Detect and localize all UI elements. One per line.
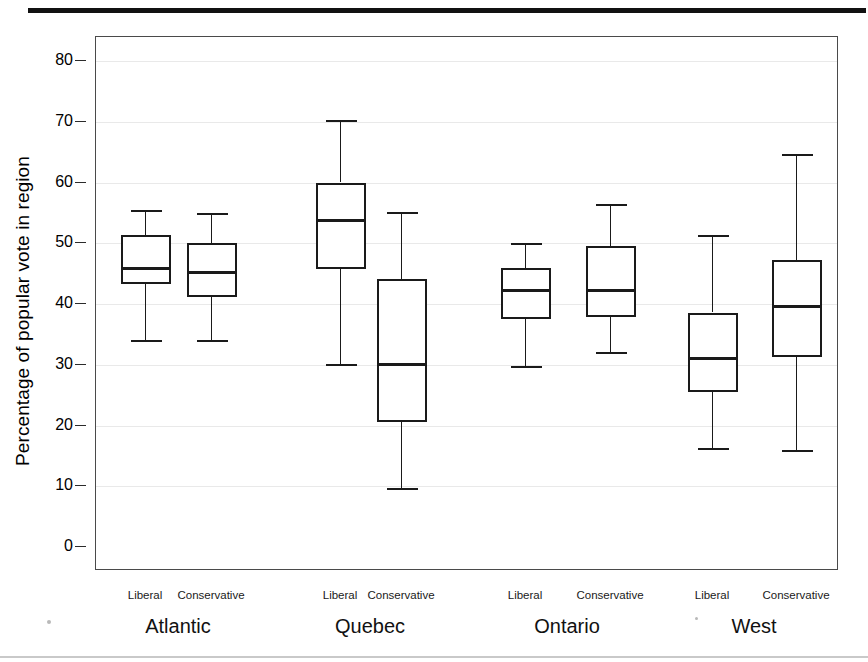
- lower-whisker-cap: [511, 366, 542, 368]
- lower-whisker-cap: [782, 450, 813, 452]
- x-series-label-quebec-conservative: Conservative: [367, 589, 434, 601]
- y-tick-mark: [75, 546, 86, 547]
- lower-whisker-line: [525, 319, 526, 366]
- y-tick-mark: [75, 60, 86, 61]
- upper-whisker-cap: [782, 154, 813, 156]
- lower-whisker-line: [401, 422, 402, 488]
- upper-whisker-cap: [511, 243, 542, 245]
- upper-whisker-line: [712, 235, 713, 313]
- x-group-label-west: West: [731, 615, 776, 638]
- median-line: [316, 219, 366, 222]
- y-tick-label: 0: [64, 538, 73, 554]
- x-series-label-ontario-liberal: Liberal: [508, 589, 543, 601]
- y-tick-mark: [75, 121, 86, 122]
- upper-whisker-cap: [131, 210, 162, 212]
- upper-whisker-line: [401, 212, 402, 279]
- lower-whisker-line: [145, 284, 146, 340]
- y-tick-mark: [75, 182, 86, 183]
- y-tick-mark: [75, 485, 86, 486]
- box-iqr-rect: [121, 235, 171, 284]
- box-iqr-rect: [377, 279, 427, 422]
- y-tick-mark: [75, 425, 86, 426]
- lower-whisker-cap: [387, 488, 418, 490]
- upper-whisker-cap: [387, 212, 418, 214]
- lower-whisker-cap: [131, 340, 162, 342]
- median-line: [121, 267, 171, 270]
- box-iqr-rect: [187, 243, 237, 297]
- scan-speck: [47, 620, 51, 624]
- box-plot-atlantic-conservative: [187, 37, 237, 571]
- box-plot-west-conservative: [772, 37, 822, 571]
- box-plot-ontario-liberal: [501, 37, 551, 571]
- y-tick-label: 10: [55, 477, 73, 493]
- box-iqr-rect: [688, 313, 738, 393]
- y-tick-mark: [75, 364, 86, 365]
- upper-whisker-line: [145, 210, 146, 236]
- box-plot-atlantic-liberal: [121, 37, 171, 571]
- y-axis-title: Percentage of popular vote in region: [12, 96, 34, 526]
- page-bottom-rule: [0, 656, 868, 658]
- median-line: [187, 271, 237, 274]
- upper-whisker-line: [340, 120, 341, 183]
- lower-whisker-line: [340, 269, 341, 363]
- page-top-rule: [28, 8, 866, 13]
- box-iqr-rect: [586, 246, 636, 317]
- box-iqr-rect: [772, 260, 822, 357]
- y-tick-label: 60: [55, 174, 73, 190]
- x-group-label-ontario: Ontario: [534, 615, 600, 638]
- upper-whisker-cap: [326, 120, 357, 122]
- box-plot-quebec-conservative: [377, 37, 427, 571]
- upper-whisker-cap: [197, 213, 228, 215]
- x-group-label-quebec: Quebec: [335, 615, 405, 638]
- y-tick-label: 50: [55, 234, 73, 250]
- lower-whisker-cap: [596, 352, 627, 354]
- y-tick-label: 80: [55, 52, 73, 68]
- upper-whisker-line: [610, 204, 611, 246]
- lower-whisker-line: [712, 392, 713, 448]
- upper-whisker-cap: [596, 204, 627, 206]
- x-series-label-quebec-liberal: Liberal: [323, 589, 358, 601]
- box-plot-quebec-liberal: [316, 37, 366, 571]
- median-line: [501, 289, 551, 292]
- lower-whisker-line: [796, 357, 797, 450]
- upper-whisker-line: [525, 243, 526, 268]
- y-axis: Percentage of popular vote in region 010…: [0, 0, 95, 662]
- median-line: [377, 363, 427, 366]
- y-tick-mark: [75, 242, 86, 243]
- box-iqr-rect: [316, 183, 366, 270]
- lower-whisker-cap: [326, 364, 357, 366]
- x-series-label-atlantic-liberal: Liberal: [128, 589, 163, 601]
- median-line: [772, 305, 822, 308]
- y-tick-label: 20: [55, 417, 73, 433]
- box-iqr-rect: [501, 268, 551, 319]
- upper-whisker-cap: [698, 235, 729, 237]
- y-tick-mark: [75, 303, 86, 304]
- median-line: [586, 289, 636, 292]
- y-tick-label: 30: [55, 356, 73, 372]
- scan-speck: [695, 617, 698, 620]
- box-plot-west-liberal: [688, 37, 738, 571]
- y-tick-label: 70: [55, 113, 73, 129]
- x-group-label-atlantic: Atlantic: [145, 615, 211, 638]
- x-series-label-west-conservative: Conservative: [762, 589, 829, 601]
- plot-area: [95, 36, 838, 570]
- upper-whisker-line: [796, 154, 797, 260]
- y-tick-label: 40: [55, 295, 73, 311]
- median-line: [688, 357, 738, 360]
- x-series-label-west-liberal: Liberal: [695, 589, 730, 601]
- x-series-label-atlantic-conservative: Conservative: [177, 589, 244, 601]
- lower-whisker-cap: [698, 448, 729, 450]
- box-plot-ontario-conservative: [586, 37, 636, 571]
- lower-whisker-cap: [197, 340, 228, 342]
- x-series-label-ontario-conservative: Conservative: [576, 589, 643, 601]
- lower-whisker-line: [211, 297, 212, 340]
- lower-whisker-line: [610, 317, 611, 352]
- upper-whisker-line: [211, 213, 212, 242]
